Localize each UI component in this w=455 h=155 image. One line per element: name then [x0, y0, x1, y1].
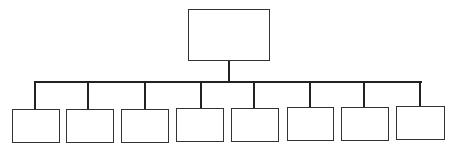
child-connector-2: [87, 82, 89, 109]
child-connector-5: [253, 82, 255, 108]
child-connector-3: [144, 82, 146, 109]
node-label: [397, 107, 444, 139]
child-connector-7: [363, 82, 365, 107]
child-connector-4: [200, 82, 202, 108]
root-node: [188, 9, 270, 61]
node-label: [122, 110, 168, 142]
child-node-1: [12, 109, 60, 143]
child-node-4: [176, 108, 224, 142]
node-label: [13, 110, 59, 142]
child-node-2: [66, 109, 114, 143]
node-label: [232, 109, 278, 141]
node-label: [189, 10, 269, 60]
child-connector-1: [34, 82, 36, 109]
child-node-5: [231, 108, 279, 142]
child-node-6: [287, 107, 334, 141]
node-label: [288, 108, 333, 140]
child-connector-8: [419, 82, 421, 106]
child-node-7: [341, 107, 389, 141]
node-label: [177, 109, 223, 141]
child-connector-6: [309, 82, 311, 107]
child-node-3: [121, 109, 169, 143]
node-label: [67, 110, 113, 142]
node-label: [342, 108, 388, 140]
child-node-8: [396, 106, 445, 140]
trunk-connector: [228, 61, 230, 82]
